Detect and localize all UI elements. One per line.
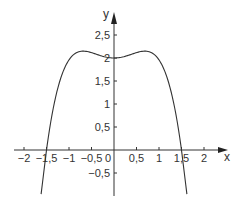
x-tick-label: 2 bbox=[201, 152, 207, 164]
x-axis-label: x bbox=[224, 150, 230, 164]
y-axis-arrow-icon bbox=[111, 12, 117, 24]
function-plot: x y 0 −2−1,5−1−0,50,511,52 2,521,510,5−0… bbox=[0, 0, 240, 202]
y-tick-label: −0,5 bbox=[88, 167, 110, 179]
x-tick-label: −2 bbox=[18, 152, 31, 164]
y-axis-label: y bbox=[103, 7, 109, 21]
y-tick-label: 0,5 bbox=[95, 121, 110, 133]
origin-label: 0 bbox=[105, 152, 111, 164]
x-tick-label: 1 bbox=[156, 152, 162, 164]
x-tick-label: 0,5 bbox=[129, 152, 144, 164]
x-tick-label: −1 bbox=[63, 152, 76, 164]
x-tick-label: −0,5 bbox=[81, 152, 103, 164]
y-tick-label: 2,5 bbox=[95, 29, 110, 41]
y-tick-label: 1,5 bbox=[95, 75, 110, 87]
axes: x y 0 bbox=[14, 7, 230, 196]
y-tick-label: 1 bbox=[104, 98, 110, 110]
